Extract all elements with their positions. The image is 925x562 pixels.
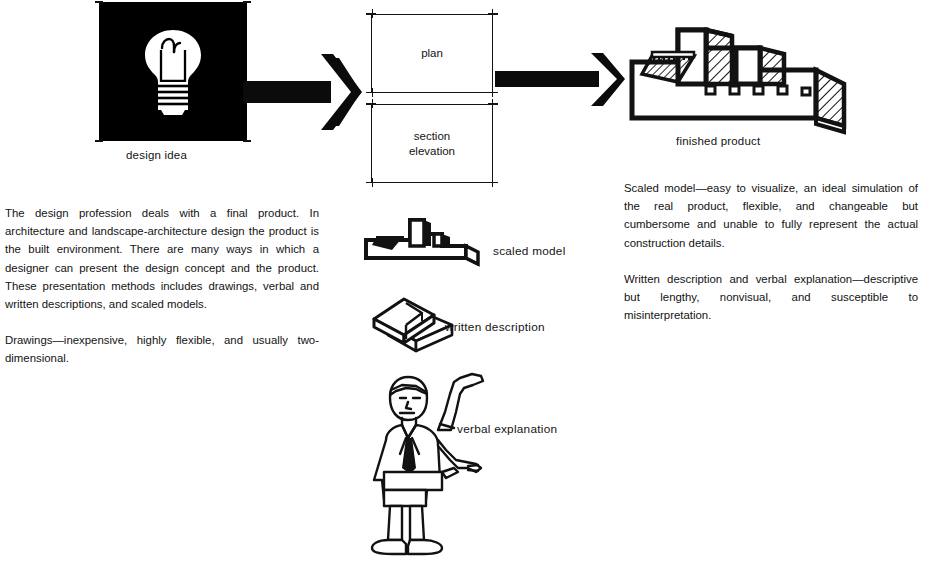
section-label: section <box>372 129 492 144</box>
arrow-idea-to-drawings <box>243 52 363 140</box>
plan-box-corner-vtl <box>372 9 374 18</box>
design-idea-caption: design idea <box>126 149 187 161</box>
right-text-column: Scaled model—easy to visualize, an ideal… <box>624 179 918 324</box>
design-idea-panel <box>99 2 247 141</box>
right-paragraph-1: Scaled model—easy to visualize, an ideal… <box>624 179 918 252</box>
written-description-label: written description <box>445 320 545 334</box>
right-arrow-icon <box>495 51 625 111</box>
plan-label: plan <box>372 46 492 61</box>
left-paragraph-2: Drawings—inexpensive, highly flexible, a… <box>5 331 319 367</box>
plan-box-corner-vbl <box>372 88 374 97</box>
finished-product-graphic <box>620 22 852 138</box>
lightbulb-icon <box>99 2 247 141</box>
panel-corner-tick-br <box>243 140 251 142</box>
plan-box-corner-vbr <box>492 88 494 97</box>
scaled-model-graphic <box>362 212 484 272</box>
section-box-corner-vbr <box>492 178 494 187</box>
section-box-corner-vtl <box>372 99 374 108</box>
elevation-label: elevation <box>372 144 492 159</box>
right-arrow-icon <box>243 52 363 136</box>
plan-drawing-box: plan <box>371 14 493 93</box>
left-text-column: The design profession deals with a final… <box>5 204 319 368</box>
panel-corner-tick-tr <box>243 1 251 3</box>
factory-building-axonometric-icon <box>620 22 852 134</box>
plan-box-corner-vtr <box>492 9 494 18</box>
left-paragraph-1: The design profession deals with a final… <box>5 204 319 313</box>
section-box-corner-vtr <box>492 99 494 108</box>
section-elevation-drawing-box: section elevation <box>371 104 493 183</box>
verbal-explanation-label: verbal explanation <box>457 422 557 436</box>
scaled-model-icon <box>362 212 484 268</box>
panel-corner-tick-bl <box>95 140 103 142</box>
arrow-drawings-to-product <box>495 51 625 115</box>
scaled-model-label: scaled model <box>493 244 566 258</box>
finished-product-caption: finished product <box>676 135 760 147</box>
panel-corner-tick-tl <box>95 1 103 3</box>
section-box-corner-vbl <box>372 178 374 187</box>
verbal-explanation-graphic <box>350 368 490 562</box>
speaking-person-icon <box>350 368 490 562</box>
right-paragraph-2: Written description and verbal explanati… <box>624 270 918 325</box>
